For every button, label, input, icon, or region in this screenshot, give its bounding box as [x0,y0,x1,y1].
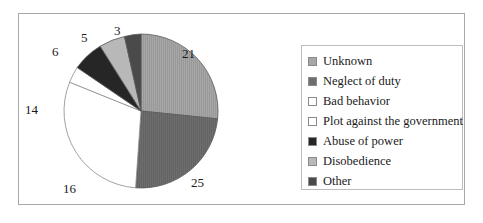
legend-label-plot-against-the-government: Plot against the government [323,115,463,128]
pie-label-abuse-of-power: 6 [52,45,59,58]
legend-swatch-icon-abuse-of-power [308,137,317,146]
pie-slice-neglect-of-duty [136,111,218,188]
pie-chart-svg [19,14,289,204]
legend-label-neglect-of-duty: Neglect of duty [323,75,401,88]
legend-swatch-icon-neglect-of-duty [308,77,317,86]
legend-swatch-icon-unknown [308,57,317,66]
legend-item-other[interactable]: Other [308,171,351,191]
legend-label-other: Other [323,175,351,188]
pie-chart-area: 21 25 16 14 6 5 3 [19,14,289,204]
legend-item-bad-behavior[interactable]: Bad behavior [308,91,390,111]
legend-label-disobedience: Disobedience [323,155,391,168]
legend-label-abuse-of-power: Abuse of power [323,135,403,148]
legend-item-disobedience[interactable]: Disobedience [308,151,391,171]
legend-item-neglect-of-duty[interactable]: Neglect of duty [308,71,401,91]
chart-legend: Unknown Neglect of duty Bad behavior Plo… [301,45,463,190]
legend-item-unknown[interactable]: Unknown [308,51,372,71]
pie-label-neglect-of-duty: 25 [191,176,204,189]
legend-item-abuse-of-power[interactable]: Abuse of power [308,131,403,151]
pie-label-disobedience: 5 [81,31,88,44]
pie-label-plot-against-the-government: 14 [25,103,38,116]
pie-slice-unknown [141,34,218,119]
legend-swatch-icon-plot-against-the-government [308,117,317,126]
legend-item-plot-against-the-government[interactable]: Plot against the government [308,111,463,131]
legend-swatch-icon-disobedience [308,157,317,166]
pie-label-unknown: 21 [182,47,195,60]
legend-swatch-icon-other [308,177,317,186]
legend-label-bad-behavior: Bad behavior [323,95,390,108]
pie-label-other: 3 [114,24,121,37]
legend-swatch-icon-bad-behavior [308,97,317,106]
chart-frame: 21 25 16 14 6 5 3 Unknown Neglect of dut… [18,13,465,205]
legend-label-unknown: Unknown [323,55,372,68]
pie-label-bad-behavior: 16 [63,182,76,195]
